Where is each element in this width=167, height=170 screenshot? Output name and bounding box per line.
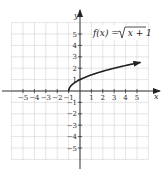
svg-text:−5: −5 [18, 94, 28, 102]
svg-text:−3: −3 [41, 94, 51, 102]
svg-text:−5: −5 [67, 145, 77, 153]
svg-text:−3: −3 [67, 122, 77, 130]
svg-text:5: 5 [135, 94, 139, 102]
function-graph: −5−4−3−2−11234554321−1−2−3−4−5 f(x) = x … [0, 0, 167, 170]
svg-text:1: 1 [89, 94, 93, 102]
function-label: f(x) = x + 1 [92, 25, 152, 40]
y-axis-label: y [73, 11, 79, 20]
svg-text:−2: −2 [67, 110, 77, 118]
svg-text:3: 3 [73, 53, 77, 61]
svg-text:4: 4 [123, 94, 128, 102]
svg-text:2: 2 [101, 94, 105, 102]
svg-text:−4: −4 [67, 133, 78, 141]
function-curve [69, 62, 141, 91]
svg-text:−1: −1 [67, 99, 77, 107]
svg-text:5: 5 [73, 31, 77, 39]
x-axis-label: x [154, 92, 159, 101]
svg-text:3: 3 [112, 94, 116, 102]
svg-text:−2: −2 [52, 94, 62, 102]
svg-text:4: 4 [73, 42, 78, 50]
svg-text:−4: −4 [29, 94, 40, 102]
svg-text:2: 2 [73, 65, 77, 73]
